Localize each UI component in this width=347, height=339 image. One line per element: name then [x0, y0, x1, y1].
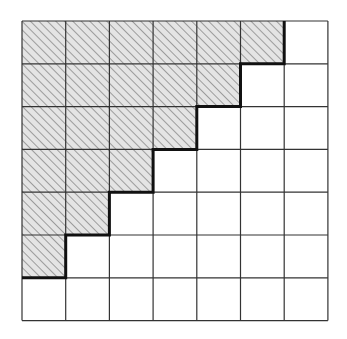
hatched-cell [22, 149, 66, 192]
hatched-cell [197, 21, 241, 64]
hatched-cell [109, 21, 153, 64]
hatched-cell [241, 21, 285, 64]
staircase-grid-diagram [0, 0, 347, 339]
hatched-cell [66, 107, 110, 150]
hatched-cell [22, 192, 66, 235]
hatched-cell [153, 107, 197, 150]
hatched-cell [153, 64, 197, 107]
hatched-cell [22, 235, 66, 278]
hatched-cell [66, 21, 110, 64]
hatched-cell [109, 149, 153, 192]
hatched-cell [153, 21, 197, 64]
hatched-cell [22, 21, 66, 64]
hatched-cell [22, 107, 66, 150]
hatched-cell [66, 64, 110, 107]
hatched-cell [197, 64, 241, 107]
hatched-cell [66, 149, 110, 192]
hatched-cell [66, 192, 110, 235]
hatched-cell [22, 64, 66, 107]
hatched-cell [109, 107, 153, 150]
hatched-cell [109, 64, 153, 107]
